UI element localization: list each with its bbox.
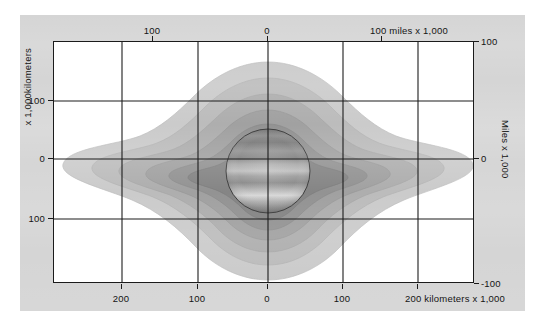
x-axis-bottom-label-1: 200: [113, 293, 129, 304]
tick-right-3: [474, 283, 479, 284]
plot-area: [53, 41, 474, 283]
y-axis-right-label-1: 100: [481, 36, 497, 47]
tick-left-2: [48, 158, 53, 159]
x-axis-bottom-label-3: 0: [264, 293, 269, 304]
y-axis-unit-caption-right: Miles x 1,000: [500, 120, 511, 179]
magnetosphere-contour-plot: [54, 42, 474, 283]
tick-right-1: [474, 41, 479, 42]
x-axis-bottom-label-4: 100: [334, 293, 350, 304]
tick-bottom-5: [417, 284, 418, 289]
y-axis-right-label-3: -100: [481, 278, 501, 289]
tick-bottom-3: [267, 284, 268, 289]
x-axis-top-label-1: 100: [144, 25, 160, 36]
y-axis-unit-caption-left: kilometers x 1,000: [22, 48, 36, 126]
y-axis-unit-caption-right-text: Miles x 1,000: [500, 120, 511, 179]
tick-left-3: [48, 218, 53, 219]
y-axis-left-label-2: 0: [22, 153, 45, 164]
tick-top-2: [267, 36, 268, 41]
plot-scan-banding: [54, 42, 474, 283]
figure-root: kilometers x 1,000 Miles x 1,000: [0, 0, 547, 329]
tick-top-1: [152, 36, 153, 41]
y-axis-unit-caption-left-line1: kilometers: [22, 48, 33, 93]
x-axis-top-label-2: 0: [264, 25, 269, 36]
tick-bottom-4: [342, 284, 343, 289]
tick-right-2: [474, 158, 479, 159]
y-axis-left-label-1: 100: [22, 95, 45, 106]
x-axis-top-unit-caption: 100 miles x 1,000: [370, 25, 448, 36]
tick-bottom-2: [197, 284, 198, 289]
tick-top-3: [381, 36, 382, 41]
y-axis-left-label-3: 100: [22, 213, 45, 224]
x-axis-bottom-unit-caption: 200 kilometers x 1,000: [405, 293, 505, 304]
x-axis-bottom-label-2: 100: [189, 293, 205, 304]
y-axis-right-label-2: 0: [481, 153, 486, 164]
tick-left-1: [48, 100, 53, 101]
tick-bottom-1: [121, 284, 122, 289]
